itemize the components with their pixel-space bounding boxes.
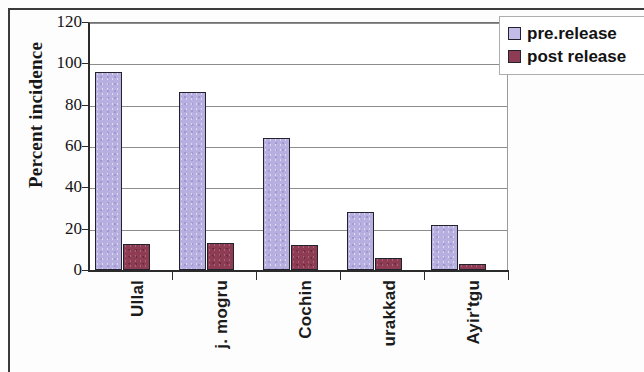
x-axis-category-label: j. mogru [212,280,232,372]
gridline [90,23,507,24]
bar-post-release [375,258,402,270]
y-axis-tick-label: 100 [38,53,82,73]
x-axis-baseline [88,270,509,272]
bar-post-release [207,243,234,270]
y-axis-tick-label: 20 [38,219,82,239]
x-axis-tick-mark [172,272,173,280]
bar-pre-release [347,212,374,270]
y-axis-tick-mark [82,229,88,230]
bar-pre-release [263,138,290,270]
y-axis-tick-label: 80 [38,95,82,115]
y-axis-tick-mark [82,270,88,271]
legend-label-pre-release: pre.release [527,24,617,44]
bar-pre-release [179,92,206,270]
x-axis-category-label: Ayir'tgu [464,280,484,372]
y-axis-tick-mark [82,146,88,147]
bar-pre-release [431,225,458,270]
chart-legend: pre.release post release [499,16,644,75]
legend-item-pre-release[interactable]: pre.release [508,22,638,45]
bar-post-release [291,245,318,270]
legend-item-post-release[interactable]: post release [508,45,638,68]
x-axis-tick-mark [508,272,509,280]
gridline [90,147,507,148]
plot-area [88,22,508,270]
x-axis-tick-mark [340,272,341,280]
figure-frame-left-border [8,8,10,372]
gridline [90,188,507,189]
y-axis-tick-mark [82,22,88,23]
x-axis-category-label: Cochin [296,280,316,372]
y-axis-tick-label: 60 [38,136,82,156]
y-axis-tick-mark [82,105,88,106]
legend-swatch-pre-release-icon [508,27,521,40]
figure-frame-top-border [8,8,644,10]
gridline [90,106,507,107]
gridline [90,64,507,65]
x-axis-category-label: Ullal [128,280,148,372]
legend-label-post-release: post release [527,47,626,67]
x-axis-category-label: urakkad [380,280,400,372]
y-axis-tick-label: 0 [38,260,82,280]
x-axis-tick-mark [256,272,257,280]
y-axis-tick-label: 120 [38,12,82,32]
legend-swatch-post-release-icon [508,50,521,63]
bar-pre-release [95,72,122,270]
y-axis-tick-label: 40 [38,177,82,197]
chart-figure: Percent incidence 020406080100120 Ullalj… [0,0,644,372]
bar-post-release [123,244,150,270]
y-axis-tick-labels: 020406080100120 [32,22,82,270]
y-axis-tick-mark [82,63,88,64]
x-axis-category-labels: Ullalj. mogruCochinurakkadAyir'tgu [88,280,508,372]
x-axis-tick-mark [424,272,425,280]
y-axis-tick-mark [82,187,88,188]
